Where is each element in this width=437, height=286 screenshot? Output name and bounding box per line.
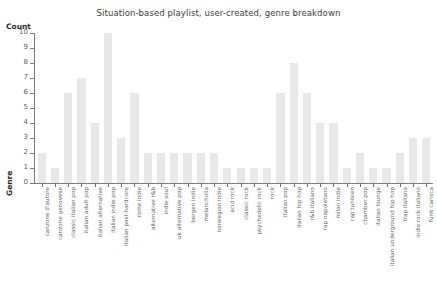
x-label-slot: italian lounge bbox=[367, 187, 380, 283]
x-tick bbox=[367, 33, 380, 188]
x-axis-tick-labels: canzone d'autorecanzone genoveseclassic … bbox=[35, 187, 433, 283]
x-tick bbox=[181, 33, 194, 188]
y-tick-label: 9 bbox=[24, 43, 28, 51]
y-tick-mark bbox=[30, 138, 34, 139]
x-tick-label: funk carioca bbox=[428, 187, 434, 222]
x-tick bbox=[353, 33, 366, 188]
x-label-slot: melancholia bbox=[194, 187, 207, 283]
y-tick-mark bbox=[30, 93, 34, 94]
x-label-slot: rap napoletano bbox=[314, 187, 327, 283]
y-tick-label: 6 bbox=[24, 88, 28, 96]
x-axis-ticks bbox=[35, 33, 433, 188]
bar-chart: Situation-based playlist, user-created, … bbox=[0, 0, 437, 286]
x-tick bbox=[261, 33, 274, 188]
x-tick bbox=[115, 33, 128, 188]
x-tick bbox=[128, 33, 141, 188]
x-label-slot: rock bbox=[261, 187, 274, 283]
x-label-slot: indie soul bbox=[154, 187, 167, 283]
y-tick-label: 8 bbox=[24, 58, 28, 66]
y-tick-label: 0 bbox=[24, 178, 28, 186]
y-tick-label: 3 bbox=[24, 133, 28, 141]
y-tick-label: 5 bbox=[24, 103, 28, 111]
x-tick bbox=[48, 33, 61, 188]
x-label-slot: acid rock bbox=[221, 187, 234, 283]
x-tick bbox=[406, 33, 419, 188]
x-tick bbox=[340, 33, 353, 188]
x-label-slot: funk carioca bbox=[420, 187, 433, 283]
x-label-slot: italian post-hardcore bbox=[115, 187, 128, 283]
x-tick bbox=[327, 33, 340, 188]
y-tick-mark bbox=[30, 33, 34, 34]
x-label-slot: bergen indie bbox=[181, 187, 194, 283]
x-label-slot: canzone genovese bbox=[48, 187, 61, 283]
y-tick-mark bbox=[30, 78, 34, 79]
x-tick bbox=[75, 33, 88, 188]
x-tick bbox=[221, 33, 234, 188]
x-label-slot: norwegian indie bbox=[207, 187, 220, 283]
x-tick bbox=[101, 33, 114, 188]
x-label-slot: canzone d'autore bbox=[35, 187, 48, 283]
x-tick bbox=[154, 33, 167, 188]
y-tick-label: 4 bbox=[24, 118, 28, 126]
x-label-slot: italian alternative bbox=[88, 187, 101, 283]
x-tick bbox=[287, 33, 300, 188]
x-label-slot: rap tunisien bbox=[340, 187, 353, 283]
x-label-slot: rome indie bbox=[128, 187, 141, 283]
x-tick bbox=[393, 33, 406, 188]
x-tick bbox=[300, 33, 313, 188]
x-tick bbox=[168, 33, 181, 188]
y-tick-mark bbox=[30, 48, 34, 49]
x-tick bbox=[234, 33, 247, 188]
x-label-slot: uk alternative pop bbox=[168, 187, 181, 283]
x-tick bbox=[141, 33, 154, 188]
y-tick-mark bbox=[30, 108, 34, 109]
y-tick-mark bbox=[30, 168, 34, 169]
x-label-slot: italian indie pop bbox=[101, 187, 114, 283]
x-label-slot: italian underground hip hop bbox=[380, 187, 393, 283]
x-tick bbox=[35, 33, 48, 188]
x-label-slot: chamber pop bbox=[353, 187, 366, 283]
x-tick bbox=[314, 33, 327, 188]
x-label-slot: classic italian pop bbox=[62, 187, 75, 283]
x-tick bbox=[62, 33, 75, 188]
x-tick bbox=[88, 33, 101, 188]
x-label-slot: classic rock bbox=[234, 187, 247, 283]
y-tick-label: 2 bbox=[24, 148, 28, 156]
x-axis-label: Genre bbox=[5, 171, 14, 196]
x-tick bbox=[194, 33, 207, 188]
x-tick bbox=[274, 33, 287, 188]
x-label-slot: italian hip hop bbox=[287, 187, 300, 283]
y-tick-mark bbox=[30, 123, 34, 124]
chart-title: Situation-based playlist, user-created, … bbox=[0, 8, 437, 18]
x-label-slot: trap italiana bbox=[393, 187, 406, 283]
x-label-slot: r&b italiano bbox=[300, 187, 313, 283]
y-tick-label: 1 bbox=[24, 163, 28, 171]
x-tick bbox=[207, 33, 220, 188]
x-tick bbox=[420, 33, 433, 188]
x-label-slot: italian adult pop bbox=[75, 187, 88, 283]
x-tick bbox=[247, 33, 260, 188]
x-label-slot: indie rock italiano bbox=[406, 187, 419, 283]
plot-area: 012345678910 bbox=[34, 33, 433, 183]
x-label-slot: italian pop bbox=[274, 187, 287, 283]
y-tick-mark bbox=[30, 183, 34, 184]
y-tick-label: 10 bbox=[19, 28, 28, 36]
x-label-slot: alternative r&b bbox=[141, 187, 154, 283]
y-tick-mark bbox=[30, 153, 34, 154]
x-label-slot: milan indie bbox=[327, 187, 340, 283]
x-label-slot: psychedelic rock bbox=[247, 187, 260, 283]
x-tick bbox=[380, 33, 393, 188]
y-tick-mark bbox=[30, 63, 34, 64]
y-tick-label: 7 bbox=[24, 73, 28, 81]
